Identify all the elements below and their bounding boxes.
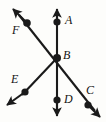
point-dot-D [53,96,60,103]
point-label-B: B [63,49,70,61]
point-dot-B [53,54,61,62]
diagram-canvas [0,0,106,122]
point-dot-A [53,18,60,25]
point-dot-F [23,19,31,27]
geometry-diagram: A B C D E F [0,0,106,122]
point-dot-E [21,88,28,95]
point-label-E: E [11,73,18,85]
point-label-F: F [12,24,19,36]
point-label-C: C [86,84,94,96]
point-label-A: A [65,14,72,26]
point-dot-C [84,101,91,108]
point-label-D: D [64,93,73,105]
